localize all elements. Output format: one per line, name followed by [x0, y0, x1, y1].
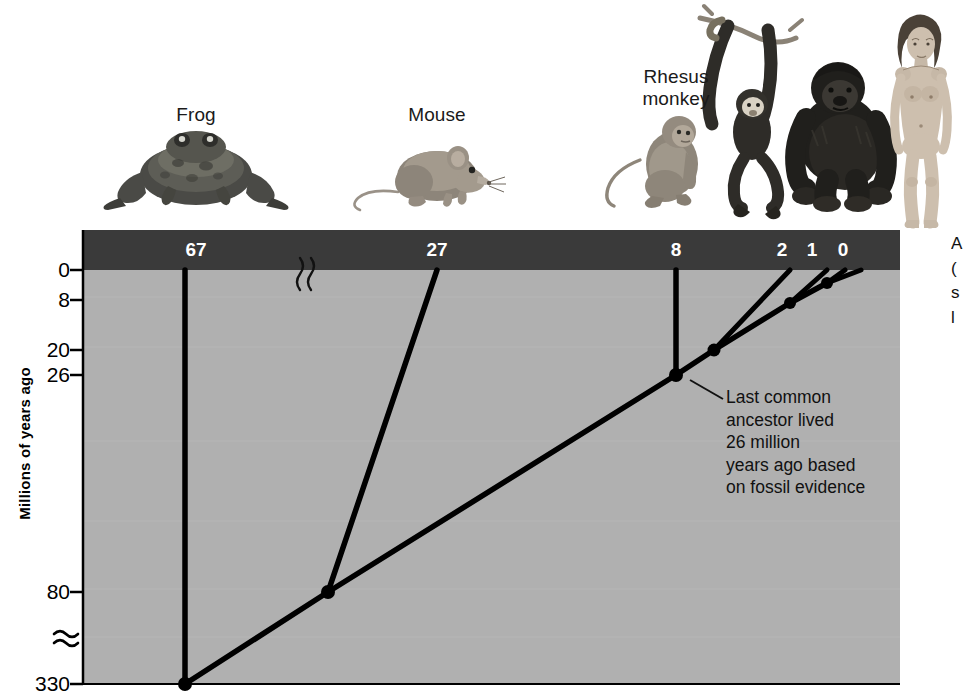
y-axis-tick-labels: 0 8 20 26 80 330: [0, 0, 70, 698]
right-edge-caption: A ( s l: [951, 232, 965, 331]
header-number-2: 2: [777, 240, 788, 259]
node-ape-26: [669, 368, 683, 382]
timeline-plot: [0, 0, 965, 698]
ytick-8: 8: [10, 289, 70, 310]
ytick-330: 330: [10, 673, 70, 694]
header-number-27: 27: [426, 240, 447, 259]
node-root-330: [178, 677, 192, 691]
ytick-80: 80: [10, 581, 70, 602]
y-axis-ticks: [70, 270, 83, 684]
header-number-67: 67: [185, 240, 206, 259]
header-number-8: 8: [671, 240, 682, 259]
node-mouse-80: [321, 585, 335, 599]
node-human-2: [821, 277, 833, 289]
figure-canvas: Frog Mouse Rhesus monkey: [0, 0, 965, 698]
node-gibbon-20: [708, 344, 721, 357]
annotation-text: Last common ancestor lived 26 million ye…: [726, 386, 941, 499]
header-number-1: 1: [807, 240, 818, 259]
node-gorilla-8: [784, 297, 796, 309]
y-axis-title: Millions of years ago: [16, 324, 33, 564]
header-number-0: 0: [838, 240, 849, 259]
ytick-0: 0: [10, 259, 70, 280]
